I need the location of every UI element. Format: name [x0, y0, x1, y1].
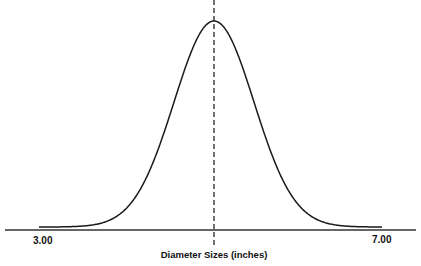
- x-tick-label-min: 3.00: [33, 235, 53, 246]
- normal-distribution-curve: [39, 21, 382, 227]
- x-tick-label-max: 7.00: [372, 234, 392, 245]
- bell-curve-chart: 3.00 7.00 Diameter Sizes (inches): [0, 0, 421, 266]
- x-axis-title: Diameter Sizes (inches): [161, 249, 268, 260]
